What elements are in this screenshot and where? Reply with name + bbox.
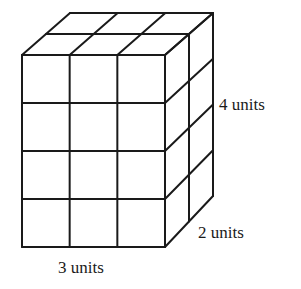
width-label: 2 units [198, 223, 244, 242]
cube-prism [22, 13, 213, 247]
length-label: 3 units [58, 258, 104, 277]
prism-svg: 4 units 2 units 3 units [0, 0, 301, 289]
height-label: 4 units [219, 95, 265, 114]
prism-diagram: 4 units 2 units 3 units [0, 0, 301, 289]
